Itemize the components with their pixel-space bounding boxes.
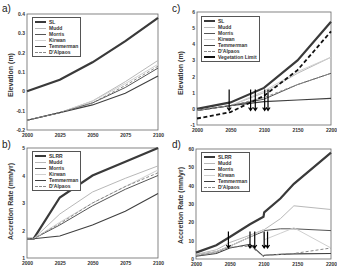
legend-swatch <box>204 175 215 176</box>
legend-label: D'Alpaos <box>218 184 239 190</box>
legend-item: D'Alpaos <box>204 184 247 190</box>
y-tick-label: 10 <box>184 238 194 244</box>
y-tick-label: 40 <box>184 183 194 189</box>
legend-swatch <box>204 156 215 158</box>
y-tick-label: 60 <box>184 146 194 152</box>
y-tick-label: 0 <box>184 256 194 262</box>
legend-swatch <box>204 169 215 170</box>
legend-swatch <box>204 181 215 182</box>
x-tick-label: 2100 <box>259 261 270 267</box>
y-tick-label: 50 <box>184 164 194 170</box>
legend: SLRRMuddMorrisKirwanTemmermanD'Alpaos <box>201 152 250 192</box>
arrow-down-icon <box>266 232 270 249</box>
x-tick-label: 2050 <box>225 261 236 267</box>
x-tick-label: 2150 <box>292 261 303 267</box>
x-tick-label: 2200 <box>326 261 337 267</box>
arrow-down-icon <box>248 232 252 249</box>
y-tick-label: 20 <box>184 219 194 225</box>
legend-swatch <box>204 187 215 188</box>
y-tick-label: 30 <box>184 201 194 207</box>
legend-swatch <box>204 163 215 164</box>
